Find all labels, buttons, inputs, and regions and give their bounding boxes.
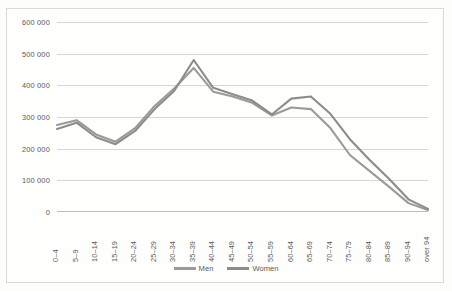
series-line-men	[57, 68, 428, 210]
y-tick-label: 200 000	[4, 144, 50, 153]
x-tick-label: 0–4	[51, 249, 60, 262]
legend-swatch-men	[174, 267, 196, 269]
plot-area: 0100 000200 000300 000400 000500 000600 …	[57, 22, 428, 212]
y-tick-label: 300 000	[4, 113, 50, 122]
x-tick-label: 20–24	[129, 241, 138, 262]
x-tick-label: 80–84	[364, 241, 373, 262]
y-tick-label: 500 000	[4, 49, 50, 58]
x-tick-label: 15–19	[110, 241, 119, 262]
y-tick-label: 600 000	[4, 18, 50, 27]
legend-swatch-women	[227, 267, 249, 269]
x-tick-label: 25–29	[149, 241, 158, 262]
x-tick-label: 50–54	[246, 241, 255, 262]
x-tick-label: 35–39	[188, 241, 197, 262]
x-tick-label: 30–34	[168, 241, 177, 262]
legend-item-men[interactable]: Men	[174, 264, 214, 273]
x-tick-label: 85–89	[383, 241, 392, 262]
legend-label: Women	[252, 264, 278, 273]
x-tick-label: 55–59	[266, 241, 275, 262]
chart-container: 0100 000200 000300 000400 000500 000600 …	[0, 0, 452, 291]
x-tick-label: 75–79	[344, 241, 353, 262]
legend-label: Men	[199, 264, 214, 273]
x-axis-tick-labels: 0–45–910–1415–1920–2425–2930–3435–3940–4…	[57, 214, 428, 262]
x-tick-label: 70–74	[325, 241, 334, 262]
series-lines	[57, 22, 428, 212]
x-tick-label: 40–44	[207, 241, 216, 262]
x-tick-label: 5–9	[71, 249, 80, 262]
x-tick-label: 45–49	[227, 241, 236, 262]
series-line-women	[57, 60, 428, 209]
y-tick-label: 0	[4, 208, 50, 217]
x-tick-label: over 94	[422, 237, 431, 262]
x-tick-label: 10–14	[90, 241, 99, 262]
x-tick-label: 60–64	[286, 241, 295, 262]
x-tick-label: 65–69	[305, 241, 314, 262]
x-tick-label: 90–94	[403, 241, 412, 262]
y-tick-label: 100 000	[4, 176, 50, 185]
y-tick-label: 400 000	[4, 81, 50, 90]
chart-legend: MenWomen	[0, 264, 452, 273]
legend-item-women[interactable]: Women	[227, 264, 278, 273]
